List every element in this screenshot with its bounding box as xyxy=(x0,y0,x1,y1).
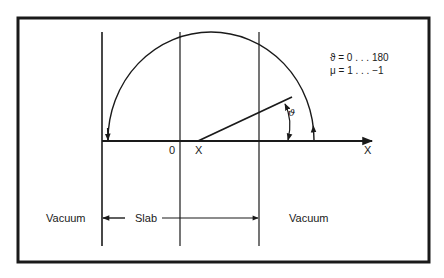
slab-label: Slab xyxy=(133,213,159,224)
slab-width-arrows xyxy=(0,0,444,278)
